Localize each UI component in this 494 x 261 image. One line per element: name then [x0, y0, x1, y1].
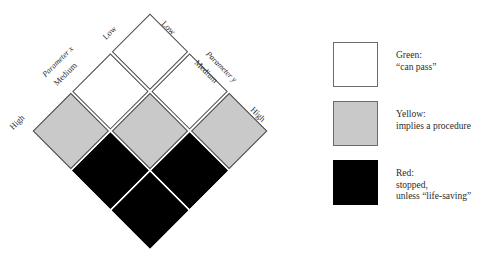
legend-green-line-1: Green:: [396, 50, 436, 62]
legend: Green: “can pass” Yellow: implies a proc…: [333, 42, 493, 219]
legend-label-yellow: Yellow: implies a procedure: [396, 101, 471, 132]
legend-green-line-2: “can pass”: [396, 62, 436, 74]
legend-label-green: Green: “can pass”: [396, 42, 436, 73]
legend-red-line-2: stopped,: [396, 180, 471, 192]
legend-item-yellow: Yellow: implies a procedure: [333, 101, 493, 146]
legend-yellow-line-1: Yellow:: [396, 109, 471, 121]
risk-matrix-diagram: Parameter x Low Medium High Parameter y …: [0, 0, 300, 261]
axis-x-tick-high: High: [8, 113, 26, 131]
legend-swatch-green-icon: [333, 42, 378, 87]
legend-yellow-line-2: implies a procedure: [396, 121, 471, 133]
legend-swatch-red-icon: [333, 160, 378, 205]
axis-x-tick-low: Low: [101, 24, 118, 41]
legend-red-line-1: Red:: [396, 168, 471, 180]
legend-item-red: Red: stopped, unless “life-saving”: [333, 160, 493, 205]
legend-swatch-yellow-icon: [333, 101, 378, 146]
legend-red-line-3: unless “life-saving”: [396, 191, 471, 203]
legend-label-red: Red: stopped, unless “life-saving”: [396, 160, 471, 203]
legend-item-green: Green: “can pass”: [333, 42, 493, 87]
